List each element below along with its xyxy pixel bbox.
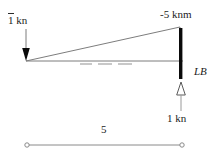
support-name-label: LB bbox=[194, 66, 207, 77]
reaction-arrowhead-icon bbox=[177, 82, 186, 95]
support-bar bbox=[179, 28, 182, 79]
span-dimension-endpoint-left bbox=[25, 143, 29, 147]
diagram-canvas bbox=[0, 0, 221, 154]
span-length-label: 5 bbox=[101, 124, 107, 135]
moment-slope-line bbox=[26, 27, 180, 61]
span-dimension-endpoint-right bbox=[180, 143, 184, 147]
beam-diagram-figure: 1 kn -5 knm LB 1 kn 5 bbox=[0, 0, 221, 154]
applied-load-arrowhead-icon bbox=[22, 48, 30, 61]
applied-load-unit: kn bbox=[16, 14, 27, 26]
applied-load-label: 1 kn bbox=[8, 13, 27, 26]
reaction-value-label: 1 kn bbox=[167, 113, 186, 124]
moment-value-label: -5 knm bbox=[160, 9, 191, 20]
